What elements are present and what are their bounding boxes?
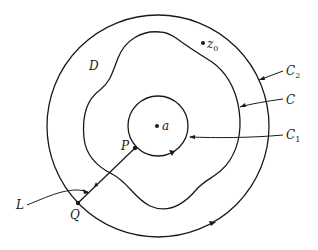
label-a: a <box>162 119 169 133</box>
label-d: D <box>88 59 99 73</box>
label-c: C <box>286 93 295 107</box>
leader-c-arrow-icon <box>240 103 246 107</box>
label-c2: C2 <box>286 64 300 80</box>
label-p: P <box>120 139 130 153</box>
leader-c <box>240 99 283 107</box>
center-point-a <box>155 124 159 128</box>
label-z0: z0 <box>206 37 218 53</box>
contour-diagram: D C2 C C1 a z0 P Q L <box>0 0 318 250</box>
leader-c2-arrow-icon <box>259 76 265 80</box>
point-z0 <box>201 41 205 45</box>
label-q: Q <box>70 208 80 222</box>
label-c1: C1 <box>286 128 300 144</box>
leader-c1-arrow-icon <box>189 135 195 139</box>
label-l: L <box>15 198 24 212</box>
point-p <box>133 146 137 150</box>
diagram-canvas: D C2 C C1 a z0 P Q L <box>0 0 318 250</box>
point-q <box>76 201 80 205</box>
segment-l <box>78 148 135 203</box>
